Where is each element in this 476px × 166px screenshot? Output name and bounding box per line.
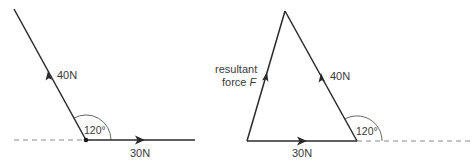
left-force-diagram: 40N 30N 120° xyxy=(14,9,195,159)
left-30n-label: 30N xyxy=(130,147,150,159)
resultant-label-line1: resultant xyxy=(215,63,257,75)
left-angle-label: 120° xyxy=(84,124,106,136)
right-40n-label: 40N xyxy=(330,70,350,82)
left-origin-point xyxy=(84,138,89,143)
force-vector-diagram: 40N 30N 120° 40N 30N 120° resultant forc… xyxy=(0,0,476,166)
left-40n-label: 40N xyxy=(57,69,77,81)
right-angle-label: 120° xyxy=(356,125,378,137)
resultant-label-force: force xyxy=(222,76,250,88)
right-30n-label: 30N xyxy=(292,147,312,159)
right-force-triangle: 40N 30N 120° resultant force F xyxy=(215,11,470,159)
resultant-label-symbol: F xyxy=(250,76,258,88)
resultant-label-line2: force F xyxy=(222,76,258,88)
